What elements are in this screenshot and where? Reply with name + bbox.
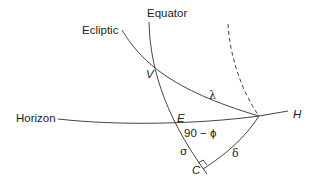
lambda-label: λ [209, 90, 216, 101]
point-v-label: V [146, 69, 154, 81]
point-c-label: C [192, 165, 200, 177]
diagram-lines [0, 0, 316, 183]
ecliptic-line [122, 30, 259, 116]
colatitude-label: 90 − ϕ [184, 128, 216, 140]
sigma-label: σ [180, 146, 188, 157]
dashed-circle [228, 24, 259, 116]
delta-label: δ [232, 148, 239, 159]
equator-label: Equator [147, 8, 187, 20]
point-h-label: H [293, 109, 301, 121]
equator-line [149, 22, 207, 174]
delta-arc [203, 116, 259, 169]
point-e-label: E [177, 113, 185, 125]
horizon-label: Horizon [16, 113, 56, 125]
ecliptic-label: Ecliptic [82, 25, 118, 37]
celestial-sphere-diagram: Equator Ecliptic Horizon H V E C λ 90 − … [0, 0, 316, 183]
